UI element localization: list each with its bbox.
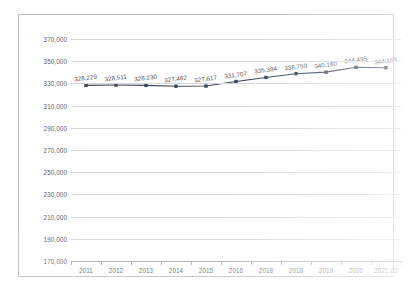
y-axis-labels: 370,000350,000330,000310,000290,000270,0… bbox=[19, 39, 67, 261]
y-tick-label: 170,000 bbox=[44, 258, 67, 265]
x-tick bbox=[341, 261, 342, 265]
x-tick-label: 2012 bbox=[109, 267, 123, 274]
gridline bbox=[71, 106, 401, 107]
x-tick-label: 2011 bbox=[79, 267, 93, 274]
y-tick-label: 250,000 bbox=[44, 169, 67, 176]
y-tick-label: 190,000 bbox=[44, 235, 67, 242]
x-tick bbox=[101, 261, 102, 265]
chart-frame: 370,000350,000330,000310,000290,000270,0… bbox=[18, 14, 394, 277]
gridline bbox=[71, 39, 401, 40]
x-tick bbox=[131, 261, 132, 265]
data-point-label: 335,384 bbox=[254, 65, 278, 75]
gridline bbox=[71, 217, 401, 218]
x-tick-label: 2013 bbox=[139, 267, 153, 274]
y-tick-label: 350,000 bbox=[44, 58, 67, 65]
x-axis-labels: 2011201220132014201520162018201820192020… bbox=[71, 267, 401, 281]
gridline bbox=[71, 83, 401, 84]
x-tick-label: 2019 bbox=[319, 267, 333, 274]
y-tick-label: 210,000 bbox=[44, 213, 67, 220]
y-tick-label: 370,000 bbox=[44, 36, 67, 43]
x-tick bbox=[281, 261, 282, 265]
plot-area: 328,229328,511328,230327,462327,617331,7… bbox=[71, 39, 401, 261]
gridline bbox=[71, 61, 401, 62]
gridline bbox=[71, 239, 401, 240]
x-tick bbox=[371, 261, 372, 265]
chart-title bbox=[0, 0, 411, 6]
data-point-label: 327,462 bbox=[164, 74, 188, 84]
gridline bbox=[71, 194, 401, 195]
y-tick-label: 230,000 bbox=[44, 191, 67, 198]
gridline bbox=[71, 172, 401, 173]
data-point-label: 328,511 bbox=[104, 73, 127, 83]
y-tick-label: 270,000 bbox=[44, 147, 67, 154]
gridline bbox=[71, 150, 401, 151]
data-point-label: 344,495 bbox=[344, 55, 368, 65]
x-tick bbox=[401, 261, 402, 265]
y-tick-label: 310,000 bbox=[44, 102, 67, 109]
data-point-label: 331,707 bbox=[224, 69, 248, 79]
x-tick bbox=[251, 261, 252, 265]
x-axis-ticks bbox=[71, 261, 401, 266]
y-tick-label: 330,000 bbox=[44, 80, 67, 87]
gridline bbox=[71, 128, 401, 129]
x-tick bbox=[161, 261, 162, 265]
data-point-label: 327,617 bbox=[194, 74, 218, 84]
x-tick-label: 2021.03 bbox=[374, 267, 397, 274]
x-tick-label: 2015 bbox=[199, 267, 213, 274]
x-tick-label: 2020 bbox=[349, 267, 363, 274]
x-tick bbox=[221, 261, 222, 265]
x-tick-label: 2014 bbox=[169, 267, 183, 274]
x-tick-label: 2016 bbox=[229, 267, 243, 274]
x-tick bbox=[191, 261, 192, 265]
x-tick bbox=[311, 261, 312, 265]
x-tick bbox=[71, 261, 72, 265]
data-point-label: 338,759 bbox=[284, 61, 308, 71]
data-point-label: 328,229 bbox=[74, 73, 98, 83]
x-tick-label: 2018 bbox=[289, 267, 303, 274]
data-point-label: 328,230 bbox=[134, 73, 158, 83]
y-tick-label: 290,000 bbox=[44, 124, 67, 131]
x-tick-label: 2018 bbox=[259, 267, 273, 274]
